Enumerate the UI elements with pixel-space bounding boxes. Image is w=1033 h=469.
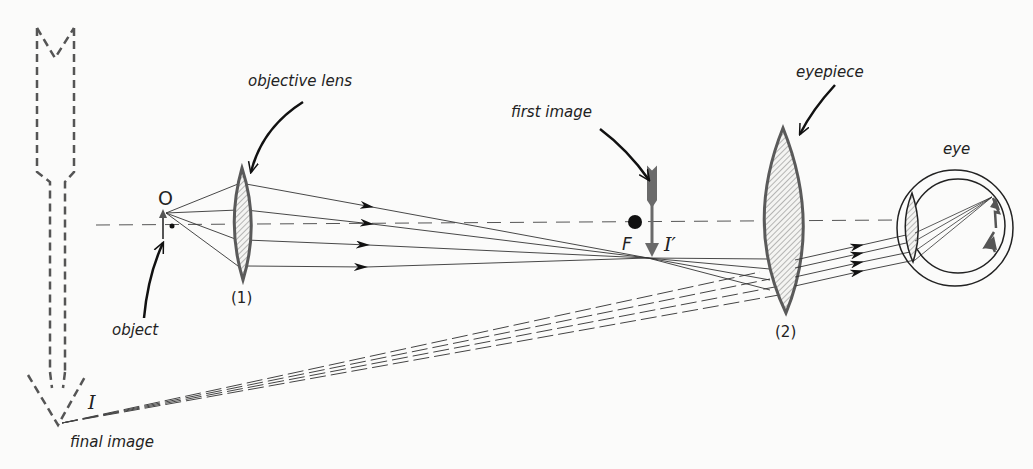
object-pointer <box>144 243 163 318</box>
eye-label: eye <box>943 140 970 158</box>
virtual-rays <box>62 272 790 423</box>
object-label: object <box>112 321 159 339</box>
eyepiece-rays <box>795 233 915 286</box>
eye <box>897 170 1013 286</box>
first-image-label: first image <box>511 103 592 121</box>
eyepiece-label: eyepiece <box>796 63 864 81</box>
first-image-pointer <box>600 129 649 180</box>
refracted-rays-objective <box>246 184 648 267</box>
incident-rays <box>166 184 238 266</box>
first-image-arrow <box>645 168 659 257</box>
objective-lens-pointer <box>251 102 303 172</box>
object-symbol: O <box>158 187 173 209</box>
focal-point <box>628 215 642 229</box>
microscope-diagram: objective lens first image eyepiece eye … <box>0 0 1033 469</box>
objective-lens-label: objective lens <box>248 72 352 90</box>
final-image-symbol: I <box>87 391 96 413</box>
eyepiece-pointer <box>800 85 835 134</box>
focal-point-label: F <box>622 234 632 254</box>
lens1-number: (1) <box>231 289 252 307</box>
final-image-arrow <box>28 28 86 425</box>
final-image-label: final image <box>70 433 154 451</box>
first-image-symbol: I′ <box>663 233 677 255</box>
lens2-number: (2) <box>775 323 796 341</box>
